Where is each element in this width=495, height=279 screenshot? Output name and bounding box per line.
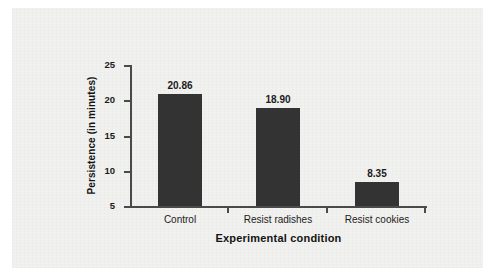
y-axis-title: Persistence (in minutes) (84, 65, 98, 206)
x-category-label-resist-cookies: Resist cookies (345, 215, 409, 225)
y-tick: 20 (124, 100, 130, 102)
y-axis-line (130, 65, 132, 206)
y-tick-label: 5 (110, 201, 115, 211)
x-category-label-resist-radishes: Resist radishes (244, 215, 312, 225)
x-category-label-control: Control (164, 215, 196, 225)
x-tick (424, 208, 426, 213)
bar-resist-radishes[interactable] (256, 108, 300, 206)
y-tick-label: 10 (104, 166, 115, 176)
y-tick: 25 (124, 65, 130, 67)
x-axis-title: Experimental condition (130, 232, 427, 244)
y-tick-label: 20 (104, 96, 115, 106)
chart-panel: Persistence (in minutes) 5 10 15 20 25 (12, 8, 483, 268)
x-tick (326, 208, 328, 213)
figure: Persistence (in minutes) 5 10 15 20 25 (0, 0, 495, 279)
bar-resist-cookies[interactable] (355, 182, 399, 206)
plot-area: 5 10 15 20 25 20.86 18.90 (130, 65, 424, 206)
y-tick: 10 (124, 171, 130, 173)
y-tick: 5 (124, 206, 130, 208)
y-tick-label: 25 (104, 60, 115, 70)
bar-value-label: 20.86 (167, 81, 192, 91)
bar-value-label: 18.90 (265, 95, 290, 105)
x-axis-line (130, 206, 427, 208)
bar-value-label: 8.35 (367, 169, 386, 179)
y-tick: 15 (124, 136, 130, 138)
x-tick (227, 208, 229, 213)
y-axis-title-text: Persistence (in minutes) (86, 77, 97, 195)
y-tick-label: 15 (104, 131, 115, 141)
bar-control[interactable] (158, 94, 202, 206)
